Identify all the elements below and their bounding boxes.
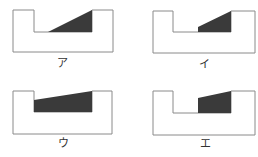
panel-label-a: ア	[52, 58, 72, 70]
panel-label-e: エ	[195, 138, 215, 150]
panel-label-i: イ	[194, 59, 214, 71]
panel-label-u: ウ	[53, 138, 73, 150]
shaded-region	[48, 10, 92, 32]
panel-i	[153, 11, 255, 53]
shaded-region	[198, 91, 231, 113]
panel-e	[153, 91, 255, 135]
figure-canvas	[0, 0, 258, 157]
shaded-region	[198, 11, 231, 32]
shaded-region	[34, 91, 92, 112]
panel-a	[13, 10, 113, 52]
panel-u	[13, 91, 112, 134]
